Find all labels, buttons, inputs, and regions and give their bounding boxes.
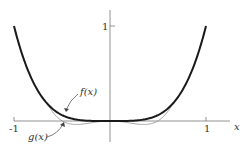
x-tick-label-neg1: -1 bbox=[9, 123, 19, 134]
y-tick-label-1: 1 bbox=[102, 21, 108, 32]
f-label: f(x) bbox=[79, 86, 97, 97]
chart: -1 1 x 1 f(x) g(x) bbox=[0, 0, 244, 151]
g-label: g(x) bbox=[28, 131, 48, 142]
f-arrowhead bbox=[64, 108, 69, 112]
x-tick-label-pos1: 1 bbox=[204, 123, 210, 134]
x-axis-label: x bbox=[234, 121, 240, 132]
f-label-arrow bbox=[66, 94, 78, 110]
g-label-arrow bbox=[47, 124, 63, 137]
g-arrowhead bbox=[60, 122, 65, 127]
